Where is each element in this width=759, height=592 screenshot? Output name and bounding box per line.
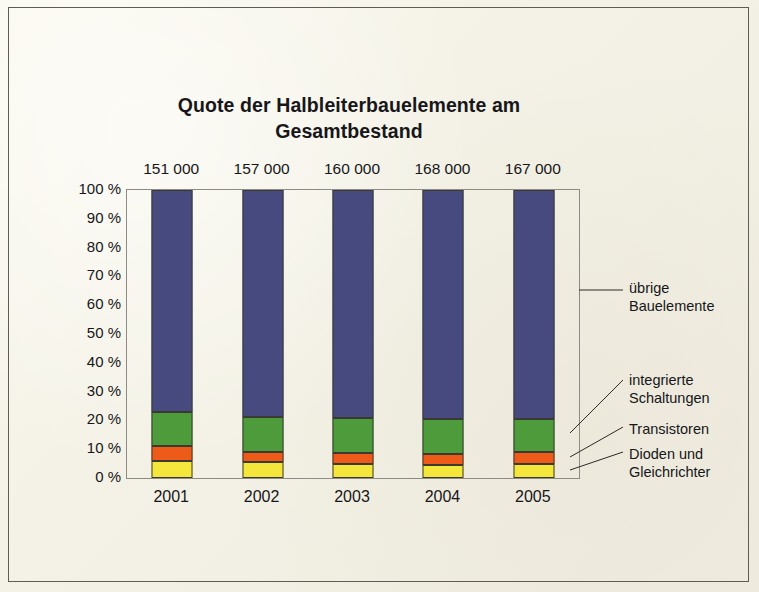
y-axis-tick-label: 30 % — [61, 383, 121, 399]
bar-slot — [398, 190, 488, 478]
bar-segment[interactable] — [152, 412, 193, 447]
bar-segment[interactable] — [242, 452, 283, 462]
figure-frame: Quote der Halbleiterbauelemente am Gesam… — [8, 7, 749, 582]
bar-slot — [308, 190, 398, 478]
bar-segment[interactable] — [152, 446, 193, 461]
bar-segment[interactable] — [242, 190, 283, 417]
y-axis-tick-label: 70 % — [61, 267, 121, 283]
annotation-integrierte-schaltungen: integrierte Schaltungen — [629, 371, 710, 407]
page-title: Quote der Halbleiterbauelemente am Gesam… — [109, 92, 589, 144]
annotation-dioden-und-gleichrichter: Dioden und Gleichrichter — [629, 445, 710, 481]
bar-segment[interactable] — [513, 464, 554, 478]
x-axis-tick-label: 2004 — [397, 485, 487, 509]
category-totals-row: 151 000157 000160 000168 000167 000 — [126, 158, 578, 180]
bar-slot — [127, 190, 217, 478]
y-axis-tick-label: 90 % — [61, 210, 121, 226]
bar-segment[interactable] — [333, 464, 374, 478]
bar-segment[interactable] — [152, 461, 193, 478]
bar-segment[interactable] — [513, 419, 554, 452]
annotation-transistoren: Transistoren — [629, 420, 709, 438]
y-axis-tick-label: 60 % — [61, 296, 121, 312]
bar-slot — [489, 190, 579, 478]
bar-segment[interactable] — [513, 190, 554, 419]
bar-segment[interactable] — [423, 465, 464, 478]
stacked-bar[interactable] — [423, 190, 464, 478]
bar-segment[interactable] — [242, 417, 283, 452]
stacked-bar[interactable] — [333, 190, 374, 478]
page-background: Quote der Halbleiterbauelemente am Gesam… — [0, 0, 759, 592]
plot-area — [126, 189, 580, 479]
y-axis-tick-label: 40 % — [61, 354, 121, 370]
category-total: 167 000 — [488, 158, 578, 180]
stacked-bar[interactable] — [242, 190, 283, 478]
y-axis-labels: 0 %10 %20 %30 %40 %50 %60 %70 %80 %90 %1… — [61, 178, 121, 488]
y-axis-tick-label: 10 % — [61, 440, 121, 456]
annotation-uebrige-bauelemente: übrige Bauelemente — [629, 279, 714, 315]
category-total: 168 000 — [397, 158, 487, 180]
bar-segment[interactable] — [423, 419, 464, 454]
stacked-bar[interactable] — [513, 190, 554, 478]
bar-segment[interactable] — [513, 452, 554, 464]
bar-segment[interactable] — [333, 418, 374, 453]
y-axis-tick-label: 50 % — [61, 325, 121, 341]
y-axis-tick-label: 80 % — [61, 239, 121, 255]
bar-segment[interactable] — [423, 454, 464, 465]
bar-segment[interactable] — [152, 190, 193, 412]
stacked-bar[interactable] — [152, 190, 193, 478]
x-axis-tick-label: 2001 — [126, 485, 216, 509]
y-axis-tick-label: 100 % — [61, 181, 121, 197]
bar-segment[interactable] — [333, 190, 374, 418]
x-axis-tick-label: 2003 — [307, 485, 397, 509]
bar-segment[interactable] — [242, 462, 283, 478]
y-axis-tick-label: 20 % — [61, 411, 121, 427]
bar-segment[interactable] — [423, 190, 464, 419]
chart-figure: Quote der Halbleiterbauelemente am Gesam… — [9, 8, 748, 581]
bar-group — [127, 190, 579, 478]
category-total: 160 000 — [307, 158, 397, 180]
category-total: 157 000 — [216, 158, 306, 180]
bar-slot — [217, 190, 307, 478]
bar-segment[interactable] — [333, 453, 374, 464]
x-axis-tick-label: 2005 — [488, 485, 578, 509]
x-axis-labels: 20012002200320042005 — [126, 485, 578, 509]
category-total: 151 000 — [126, 158, 216, 180]
y-axis-tick-label: 0 % — [61, 469, 121, 485]
x-axis-tick-label: 2002 — [216, 485, 306, 509]
